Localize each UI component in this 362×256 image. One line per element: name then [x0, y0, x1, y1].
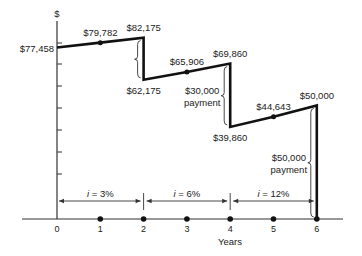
- arrow-head-right: [136, 199, 141, 203]
- x-tick-label: 6: [314, 224, 319, 234]
- arrow-head-left: [147, 199, 152, 203]
- arrow-head-right: [309, 199, 314, 203]
- data-label: $44,643: [256, 101, 290, 112]
- x-tick-label: 2: [141, 224, 146, 234]
- axis-dot: [271, 216, 277, 222]
- payment-label: $30,000: [185, 85, 219, 96]
- axis-dot: [141, 216, 147, 222]
- data-labels: $77,458$79,782$82,175$62,175$65,906$69,8…: [20, 22, 334, 143]
- axis-dot: [98, 216, 104, 222]
- period-label: i = 3%: [87, 188, 114, 199]
- payment-label: payment: [271, 164, 308, 175]
- period-label: i = 6%: [174, 188, 201, 199]
- data-label: $79,782: [83, 27, 117, 38]
- y-axis-label: $: [54, 8, 60, 19]
- axis-dot: [227, 216, 233, 222]
- data-label: $65,906: [170, 56, 204, 67]
- data-point: [98, 40, 103, 45]
- x-tick-label: 1: [98, 224, 103, 234]
- interest-periods: i = 3%i = 6%i = 12%: [59, 188, 314, 210]
- axis-dot: [184, 216, 190, 222]
- data-label: $82,175: [126, 22, 160, 33]
- period-label: i = 12%: [258, 188, 291, 199]
- axes: 0123456: [22, 21, 343, 234]
- data-point: [184, 69, 189, 74]
- x-tick-label: 5: [271, 224, 276, 234]
- payment-brace: [221, 67, 227, 125]
- data-point: [271, 114, 276, 119]
- x-tick-label: 0: [54, 224, 59, 234]
- data-label: $50,000: [300, 90, 334, 101]
- arrow-head-right: [222, 199, 227, 203]
- x-axis-label: Years: [218, 236, 242, 247]
- payment-brace: [135, 41, 141, 78]
- payment-label: payment: [184, 97, 221, 108]
- payment-label: $50,000: [272, 152, 306, 163]
- arrow-head-left: [233, 199, 238, 203]
- x-tick-label: 3: [184, 224, 189, 234]
- data-label: $69,860: [213, 48, 247, 59]
- arrow-head-left: [59, 199, 64, 203]
- data-label: $39,860: [213, 132, 247, 143]
- data-label: $77,458: [20, 43, 54, 54]
- data-label: $62,175: [126, 85, 160, 96]
- cash-flow-chart: 0123456 i = 3%i = 6%i = 12% $30,000payme…: [0, 0, 362, 256]
- x-tick-label: 4: [228, 224, 233, 234]
